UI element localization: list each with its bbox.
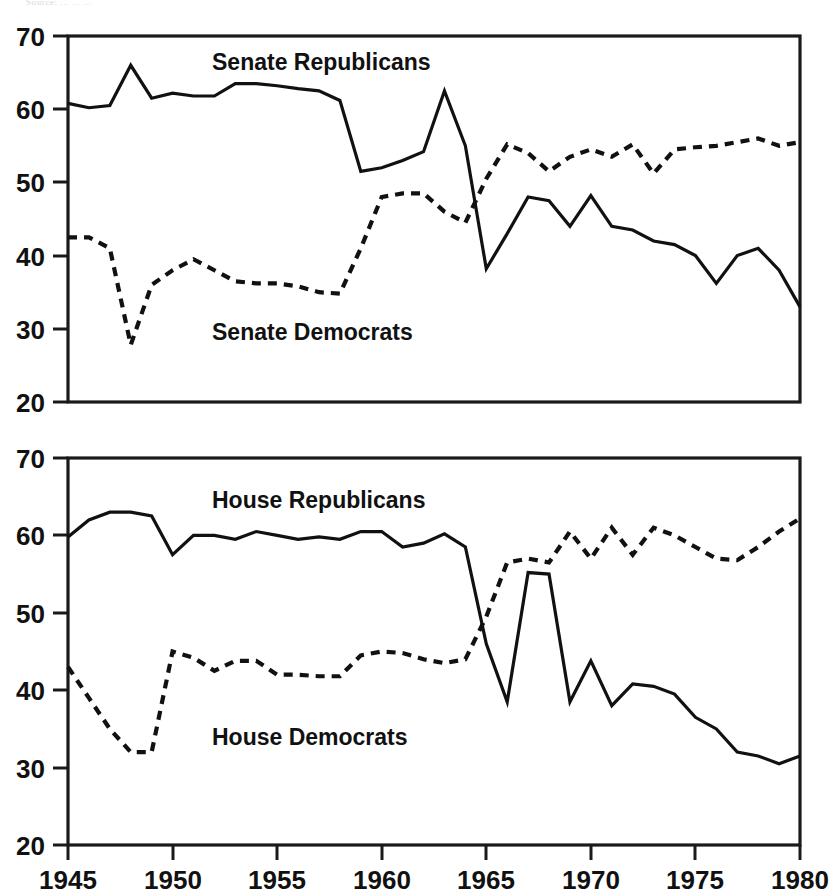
house-democrats-label: House Democrats bbox=[212, 724, 408, 750]
x-tick-1980: 1980 bbox=[771, 865, 829, 895]
house-republicans-label: House Republicans bbox=[212, 487, 425, 513]
house-chart: 70 60 50 40 30 20 House Republicans Hous… bbox=[16, 444, 829, 895]
x-tick-1965: 1965 bbox=[457, 865, 515, 895]
y-tick-60: 60 bbox=[16, 95, 45, 125]
x-tick-1945: 1945 bbox=[39, 865, 97, 895]
house-y-ticks bbox=[53, 458, 68, 845]
x-tick-1950: 1950 bbox=[144, 865, 202, 895]
y-tick-70: 70 bbox=[16, 444, 45, 474]
house-democrats-line bbox=[68, 518, 800, 752]
house-plot-frame bbox=[68, 458, 800, 845]
y-tick-70: 70 bbox=[16, 22, 45, 52]
senate-democrats-line bbox=[68, 138, 800, 344]
y-tick-50: 50 bbox=[16, 599, 45, 629]
senate-republicans-label: Senate Republicans bbox=[212, 49, 431, 75]
chart-page: Source: ... ... ... 70 60 50 40 30 20 bbox=[0, 0, 840, 896]
x-tick-labels: 1945 1950 1955 1960 1965 1970 1975 1980 bbox=[39, 865, 829, 895]
y-tick-20: 20 bbox=[16, 831, 45, 861]
house-republicans-line bbox=[68, 512, 800, 764]
y-tick-30: 30 bbox=[16, 315, 45, 345]
senate-democrats-label: Senate Democrats bbox=[212, 319, 413, 345]
senate-y-ticks bbox=[53, 36, 68, 402]
senate-chart: 70 60 50 40 30 20 Senate Republicans Sen… bbox=[16, 22, 800, 418]
y-tick-40: 40 bbox=[16, 676, 45, 706]
senate-y-tick-labels: 70 60 50 40 30 20 bbox=[16, 22, 45, 418]
y-tick-50: 50 bbox=[16, 168, 45, 198]
x-tick-1970: 1970 bbox=[562, 865, 620, 895]
x-tick-1955: 1955 bbox=[248, 865, 306, 895]
x-ticks bbox=[68, 845, 800, 860]
y-tick-20: 20 bbox=[16, 388, 45, 418]
y-tick-60: 60 bbox=[16, 521, 45, 551]
x-tick-1960: 1960 bbox=[353, 865, 411, 895]
y-tick-30: 30 bbox=[16, 754, 45, 784]
y-tick-40: 40 bbox=[16, 242, 45, 272]
house-y-tick-labels: 70 60 50 40 30 20 bbox=[16, 444, 45, 861]
x-tick-1975: 1975 bbox=[666, 865, 724, 895]
senate-plot-frame bbox=[68, 36, 800, 402]
senate-republicans-line bbox=[68, 65, 800, 307]
charts-canvas: 70 60 50 40 30 20 Senate Republicans Sen… bbox=[0, 0, 840, 896]
